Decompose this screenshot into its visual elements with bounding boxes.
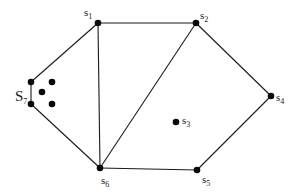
edges-group xyxy=(31,23,271,170)
label-s4: s4 xyxy=(276,91,284,106)
edge-s1-s6 xyxy=(98,23,100,168)
edge-s5-s6 xyxy=(100,168,197,170)
node-s3 xyxy=(173,119,180,126)
label-subscript: 5 xyxy=(206,179,210,188)
label-s1: s1 xyxy=(84,6,92,21)
label-subscript: 6 xyxy=(105,180,109,189)
node-s1 xyxy=(95,20,102,27)
graph-canvas: s1s2s3s4s5s6S7 xyxy=(0,0,300,196)
label-subscript: 3 xyxy=(186,120,190,129)
labels-group: s1s2s3s4s5s6S7 xyxy=(15,6,284,189)
edge-s2-s6 xyxy=(100,23,196,168)
label-s3: s3 xyxy=(182,114,190,129)
edge-s6-s7 xyxy=(31,104,100,168)
label-subscript: 7 xyxy=(23,97,27,106)
label-subscript: 1 xyxy=(88,12,92,21)
label-s2: s2 xyxy=(200,9,208,24)
node-p-c xyxy=(49,101,56,108)
node-s7 xyxy=(28,101,35,108)
label-base: S xyxy=(15,88,23,104)
polygon-graph-diagram: s1s2s3s4s5s6S7 xyxy=(0,0,300,196)
node-s5 xyxy=(194,167,201,174)
label-s6: s6 xyxy=(101,174,109,189)
node-p-b xyxy=(39,89,46,96)
node-s7-top xyxy=(28,79,35,86)
nodes-group xyxy=(28,20,275,174)
label-s5: s5 xyxy=(202,173,210,188)
edge-s7-top-s1 xyxy=(31,23,98,82)
label-subscript: 2 xyxy=(204,15,208,24)
edge-s2-s4 xyxy=(196,23,271,96)
node-s6 xyxy=(97,165,104,172)
label-s7: S7 xyxy=(15,88,27,106)
label-subscript: 4 xyxy=(280,97,284,106)
node-s4 xyxy=(268,93,275,100)
edge-s4-s5 xyxy=(197,96,271,170)
node-p-a xyxy=(49,79,56,86)
node-s2 xyxy=(193,20,200,27)
